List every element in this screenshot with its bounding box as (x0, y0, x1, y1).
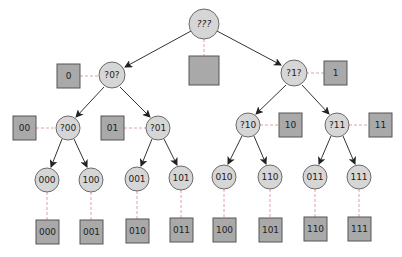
box-label: 001 (83, 227, 100, 237)
leaf-node: 100 (79, 168, 103, 192)
tree-node-00: ?00 (56, 116, 80, 140)
node-label: ?10 (240, 120, 257, 130)
node-label: 100 (82, 175, 99, 185)
leaf-box: 000 (36, 220, 59, 244)
leaf-node: 001 (125, 167, 149, 191)
box-00: 00 (13, 116, 36, 140)
box-label: 00 (19, 123, 31, 133)
box-label: 101 (262, 225, 279, 235)
tree-edges (51, 31, 355, 167)
box-root (189, 56, 219, 85)
box-label: 01 (107, 123, 118, 133)
leaf-box: 110 (304, 217, 327, 241)
leaf-node: 101 (169, 166, 193, 190)
node-label: ?00 (60, 123, 77, 133)
box-0: 0 (57, 64, 80, 88)
leaf-box: 100 (213, 218, 236, 242)
tree-node-11: ?11 (325, 113, 349, 137)
leaf-box: 011 (170, 218, 193, 242)
box-label: 110 (307, 224, 324, 234)
binary-tree-diagram: ??? ?0? 0 ?1? 1 ?00 00 ?01 01 ?10 (0, 0, 402, 257)
box-label: 11 (375, 120, 386, 130)
node-label: 000 (38, 175, 55, 185)
box-label: 10 (285, 120, 297, 130)
box-label: 111 (351, 224, 368, 234)
node-label: 011 (306, 172, 323, 182)
box-label: 010 (129, 226, 146, 236)
box-label: 1 (333, 68, 339, 78)
tree-node-root: ??? (189, 9, 219, 39)
leaf-node: 000 (35, 168, 59, 192)
leaf-node: 011 (303, 165, 327, 189)
leaf-box: 001 (80, 220, 103, 244)
leaf-node: 110 (258, 165, 282, 189)
leaf-node: 111 (347, 165, 371, 189)
node-label: 111 (350, 172, 367, 182)
node-label: 101 (172, 173, 189, 183)
node-label: ?1? (286, 68, 302, 78)
tree-node-10: ?10 (236, 113, 260, 137)
leaf-node: 010 (212, 165, 236, 189)
node-label: ??? (197, 19, 212, 29)
tree-node-0: ?0? (99, 62, 125, 88)
leaf-box: 010 (126, 219, 149, 243)
box-10: 10 (279, 113, 302, 137)
node-label: ?11 (329, 120, 345, 130)
leaf-box: 101 (259, 218, 282, 242)
tree-node-1: ?1? (281, 60, 307, 86)
box-1: 1 (324, 61, 347, 85)
node-label: ?01 (150, 123, 166, 133)
node-label: ?0? (104, 70, 120, 80)
node-label: 110 (261, 172, 278, 182)
node-label: 001 (128, 174, 145, 184)
box-label: 100 (216, 225, 233, 235)
leaf-box: 111 (348, 217, 371, 241)
box-01: 01 (101, 116, 124, 140)
box-label: 011 (173, 225, 190, 235)
box-11: 11 (369, 113, 392, 137)
box-label: 0 (66, 71, 72, 81)
tree-node-01: ?01 (146, 116, 170, 140)
node-label: 010 (215, 172, 232, 182)
box-label: 000 (39, 227, 56, 237)
